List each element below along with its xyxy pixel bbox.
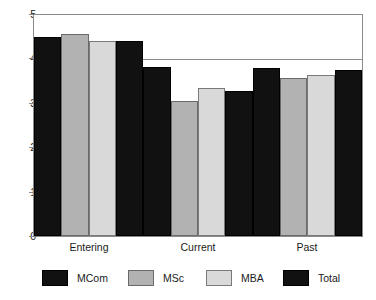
legend-swatch-total [283, 270, 309, 286]
bar-current-total[interactable] [225, 91, 252, 236]
xtick-label-past: Past [252, 241, 362, 253]
bar-past-mcom[interactable] [253, 68, 280, 236]
bar-current-mcom[interactable] [143, 67, 170, 236]
legend-item-total: Total [283, 268, 340, 288]
bar-group-past [253, 15, 362, 236]
legend-swatch-mcom [42, 270, 68, 286]
bar-entering-mba[interactable] [89, 41, 116, 236]
bar-past-msc[interactable] [280, 78, 307, 236]
bar-past-total[interactable] [335, 70, 362, 236]
bar-entering-msc[interactable] [61, 34, 88, 236]
legend-swatch-mba [206, 270, 232, 286]
chart-legend: MCom MSc MBA Total [0, 268, 376, 294]
plot-area: 5 4 3 2 1 0 Entering Current Past [0, 0, 376, 262]
legend-label-mcom: MCom [77, 272, 108, 284]
legend-label-msc: MSc [163, 272, 184, 284]
xtick-label-current: Current [143, 241, 253, 253]
bar-chart: 5 4 3 2 1 0 Entering Current Past MCom [0, 0, 376, 300]
bar-current-msc[interactable] [171, 101, 198, 236]
bars-layer [34, 15, 362, 236]
legend-label-mba: MBA [241, 272, 264, 284]
xtick-label-entering: Entering [34, 241, 144, 253]
legend-item-msc: MSc [128, 268, 184, 288]
legend-item-mba: MBA [206, 268, 264, 288]
bar-entering-total[interactable] [116, 41, 143, 236]
legend-item-mcom: MCom [42, 268, 108, 288]
legend-swatch-msc [128, 270, 154, 286]
legend-label-total: Total [318, 272, 340, 284]
bar-entering-mcom[interactable] [34, 37, 61, 236]
bar-group-current [143, 15, 252, 236]
bar-group-entering [34, 15, 143, 236]
bar-past-mba[interactable] [307, 75, 334, 236]
bar-current-mba[interactable] [198, 88, 225, 236]
